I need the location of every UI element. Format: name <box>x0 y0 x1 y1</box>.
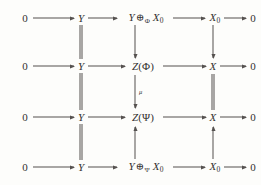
node-label: X <box>210 60 217 72</box>
arrow-row4-col2-col3 <box>88 167 117 168</box>
equality-col4-row2-row3 <box>212 74 215 110</box>
arrow-label-mu: μ <box>139 88 142 95</box>
node-label: 0 <box>22 111 28 123</box>
arrow-row2-col1-col2 <box>33 66 74 67</box>
equality-col2-row3-row4 <box>80 124 83 160</box>
node-row2-col4: X <box>210 61 217 72</box>
node-row4-col1: 0 <box>22 162 28 173</box>
node-label: 0 <box>250 60 256 72</box>
node-subscript: 0 <box>160 15 164 24</box>
node-row4-col3: Y⊕Ψ X0 <box>128 161 163 174</box>
commutative-diagram: 0 Y Y⊕Φ X0 X0 0 0 Y Z(Φ) X 0 0 Y Z(Ψ) <box>0 0 261 185</box>
equality-col2-row2-row3 <box>80 73 83 110</box>
node-label: 0 <box>250 111 256 123</box>
node-row2-col2: Y <box>78 61 84 72</box>
node-label-arg: (Ψ) <box>138 111 154 123</box>
node-label-y: Y <box>128 11 134 23</box>
node-label-y: Y <box>128 160 134 172</box>
arrow-col3-row4-row3 <box>135 127 136 159</box>
arrow-row1-col1-col2 <box>33 18 74 19</box>
oplus-icon: ⊕ <box>136 12 144 23</box>
oplus-subscript: Φ <box>145 16 150 24</box>
arrow-row3-col1-col2 <box>33 117 74 118</box>
node-row4-col4: X0 <box>210 161 221 173</box>
node-row3-col3: Z(Ψ) <box>132 112 154 123</box>
node-subscript: 0 <box>217 165 221 174</box>
arrow-row4-col1-col2 <box>33 167 74 168</box>
arrow-row3-col2-col3 <box>88 117 125 118</box>
arrow-row1-col3-col4 <box>173 18 205 19</box>
arrow-col3-row2-row3 <box>135 75 136 108</box>
node-label: 0 <box>22 12 28 24</box>
node-label: X <box>210 160 217 172</box>
arrow-col4-row4-row3 <box>213 127 214 159</box>
node-label: X <box>210 11 217 23</box>
arrow-col3-row1-row2 <box>135 25 136 58</box>
node-label: Y <box>78 111 84 123</box>
oplus-icon: ⊕ <box>136 161 144 172</box>
node-label: Y <box>78 161 84 173</box>
arrow-row3-col4-col5 <box>220 117 246 118</box>
arrow-row3-col3-col4 <box>163 117 206 118</box>
arrow-row2-col4-col5 <box>220 66 246 67</box>
node-row1-col2: Y <box>78 13 84 24</box>
node-row3-col4: X <box>210 112 217 123</box>
node-label: Y <box>78 12 84 24</box>
node-row3-col2: Y <box>78 112 84 123</box>
node-row3-col5: 0 <box>250 112 256 123</box>
node-row1-col3: Y⊕Φ X0 <box>128 12 163 25</box>
node-subscript: 0 <box>160 164 164 173</box>
node-label-arg: (Φ) <box>138 60 154 72</box>
node-row3-col1: 0 <box>22 112 28 123</box>
node-subscript: 0 <box>217 16 221 25</box>
node-label: 0 <box>250 12 256 24</box>
arrow-row4-col4-col5 <box>224 167 246 168</box>
arrow-row2-col3-col4 <box>163 66 206 67</box>
node-label: 0 <box>22 161 28 173</box>
node-row1-col1: 0 <box>22 13 28 24</box>
oplus-subscript: Ψ <box>145 165 150 173</box>
node-label: 0 <box>22 60 28 72</box>
node-row2-col5: 0 <box>250 61 256 72</box>
node-row4-col2: Y <box>78 162 84 173</box>
node-row1-col4: X0 <box>210 12 221 24</box>
node-label: X <box>210 111 217 123</box>
equality-col2-row1-row2 <box>80 25 83 59</box>
node-row4-col5: 0 <box>250 162 256 173</box>
arrow-col4-row1-row2 <box>213 25 214 58</box>
arrow-row2-col2-col3 <box>88 66 125 67</box>
node-label: 0 <box>250 161 256 173</box>
node-row1-col5: 0 <box>250 13 256 24</box>
arrow-row1-col4-col5 <box>224 18 246 19</box>
node-row2-col1: 0 <box>22 61 28 72</box>
arrow-row1-col2-col3 <box>88 18 117 19</box>
arrow-row4-col3-col4 <box>173 167 205 168</box>
node-row2-col3: Z(Φ) <box>132 61 154 72</box>
node-label: Y <box>78 60 84 72</box>
